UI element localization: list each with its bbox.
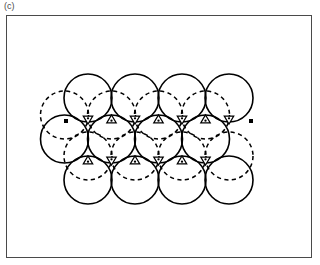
void-center-dot <box>110 158 112 160</box>
solid-sphere-layer <box>41 74 254 204</box>
solid-sphere <box>205 156 253 204</box>
close-packed-lattice-diagram <box>0 0 320 265</box>
void-center-dot <box>134 117 136 119</box>
figure-root: (c) <box>0 0 320 265</box>
void-center-dot <box>87 117 89 119</box>
void-center-dot <box>228 117 230 119</box>
solid-sphere <box>205 74 253 122</box>
void-center-dot <box>204 158 206 160</box>
void-center-dot <box>110 120 112 122</box>
solid-sphere <box>64 74 112 122</box>
solid-sphere <box>158 74 206 122</box>
void-center-dot <box>157 158 159 160</box>
void-center-dot <box>87 161 89 163</box>
void-center-dot <box>204 120 206 122</box>
void-center-dot <box>157 120 159 122</box>
solid-sphere <box>111 74 159 122</box>
void-center-dot <box>181 161 183 163</box>
void-center-dot <box>181 117 183 119</box>
edge-contact-dot <box>64 119 68 123</box>
edge-contact-dot <box>249 119 253 123</box>
void-center-dot <box>134 161 136 163</box>
